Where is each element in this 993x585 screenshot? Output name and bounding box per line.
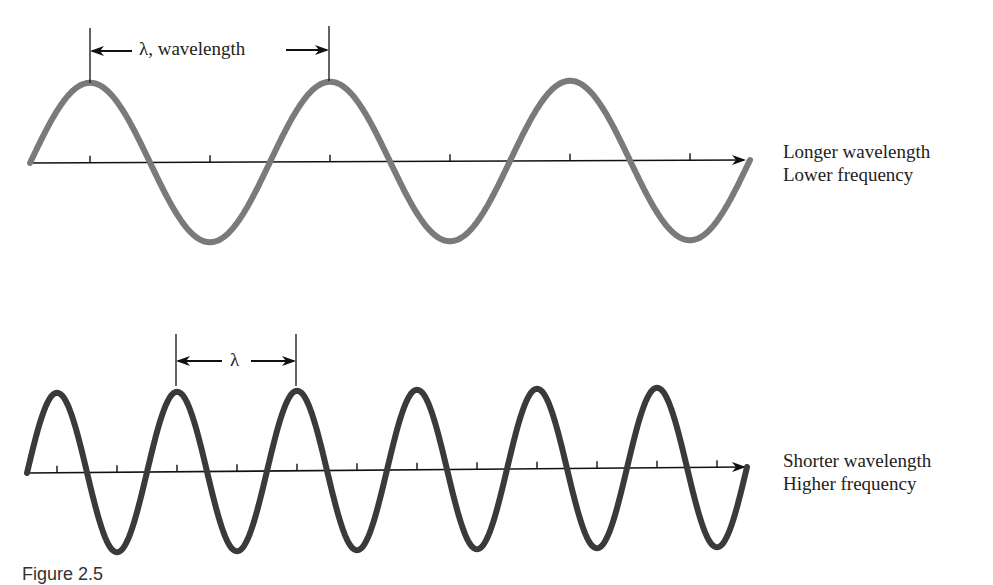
top-description: Longer wavelength Lower frequency	[783, 140, 930, 186]
top-wave-panel	[30, 26, 750, 242]
bottom-description-line1: Shorter wavelength	[783, 449, 931, 472]
top-wavelength-label: λ, wavelength	[139, 38, 245, 60]
bottom-description: Shorter wavelength Higher frequency	[783, 449, 931, 495]
top-description-line1: Longer wavelength	[783, 140, 930, 163]
bottom-wave-panel	[27, 334, 747, 552]
figure-caption: Figure 2.5	[22, 564, 103, 585]
bottom-wavelength-label: λ	[230, 349, 239, 371]
top-wave-curve	[30, 81, 750, 243]
bottom-description-line2: Higher frequency	[783, 472, 931, 495]
bottom-wave-curve	[27, 388, 747, 553]
top-description-line2: Lower frequency	[783, 163, 930, 186]
